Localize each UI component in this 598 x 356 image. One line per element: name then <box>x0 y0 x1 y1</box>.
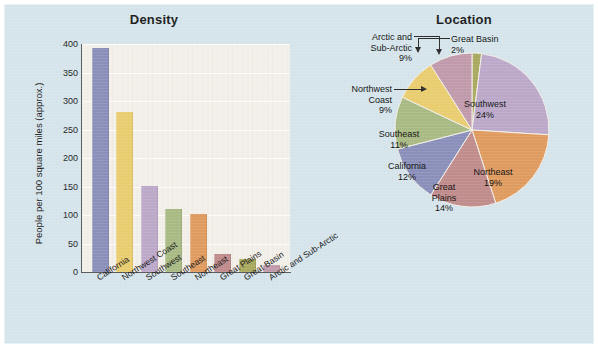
pie-label-california: California 12% <box>376 161 438 182</box>
y-axis-tick-label: 0 <box>38 267 78 277</box>
pie-leader-line-great-basin <box>418 38 450 39</box>
bar-chart-bars <box>82 44 290 272</box>
bar-chart-y-axis-ticks: 050100150200250300350400 <box>32 44 78 272</box>
bar <box>92 48 109 272</box>
pie-label-great-plains: Great Plains 14% <box>420 182 468 214</box>
bar-chart-y-axis-line <box>81 44 82 273</box>
pie-callout-arctic-line2: Sub-Arctic <box>370 43 412 53</box>
y-axis-tick-label: 300 <box>38 96 78 106</box>
bar-chart-title: Density <box>4 12 304 27</box>
pie-label-southwest-name: Southwest <box>464 99 506 109</box>
pie-leader-line-arctic-vertical <box>439 36 440 50</box>
pie-label-california-name: California <box>388 161 426 171</box>
pie-callout-northwest-pct: 9% <box>379 105 392 115</box>
pie-arrow-arctic-icon <box>436 49 442 55</box>
pie-label-southeast: Southeast 11% <box>368 129 430 150</box>
pie-callout-northwest-coast: Northwest Coast 9% <box>334 84 392 116</box>
bar-slot <box>211 44 236 272</box>
pie-callout-northwest-line1: Northwest <box>351 84 392 94</box>
pie-label-northeast: Northeast 19% <box>462 167 524 188</box>
bar-slot <box>186 44 211 272</box>
pie-callout-arctic-pct: 9% <box>399 53 412 63</box>
y-axis-tick-label: 50 <box>38 239 78 249</box>
figure-plate: Density People per 100 square miles (app… <box>4 4 594 344</box>
bar <box>116 112 133 272</box>
pie-callout-northwest-line2: Coast <box>368 95 392 105</box>
pie-label-northeast-pct: 19% <box>462 178 524 189</box>
pie-leader-line-arctic <box>414 36 440 37</box>
pie-label-california-pct: 12% <box>376 172 438 183</box>
bar-slot <box>260 44 285 272</box>
bar-slot <box>137 44 162 272</box>
pie-callout-great-basin: Great Basin 2% <box>451 34 499 55</box>
bar-chart-panel: Density People per 100 square miles (app… <box>4 4 334 344</box>
pie-leader-line-northwest-coast <box>394 89 422 90</box>
pie-callout-arctic-line1: Arctic and <box>372 32 412 42</box>
y-axis-tick-label: 200 <box>38 153 78 163</box>
y-axis-tick-label: 100 <box>38 210 78 220</box>
pie-label-southwest: Southwest 24% <box>452 99 518 120</box>
pie-callout-great-basin-pct: 2% <box>451 45 464 55</box>
pie-label-great-plains-line1: Great <box>433 182 456 192</box>
bar-slot <box>113 44 138 272</box>
bar-chart-x-axis-ticks: CaliforniaNorthwest CoastSouthwestSouthe… <box>82 274 290 344</box>
bar-chart-plot-area <box>82 44 290 272</box>
y-axis-tick-label: 350 <box>38 68 78 78</box>
pie-slice <box>472 54 549 135</box>
y-axis-tick-label: 400 <box>38 39 78 49</box>
pie-label-northeast-name: Northeast <box>473 167 512 177</box>
pie-label-great-plains-line2: Plains <box>420 193 468 204</box>
pie-label-great-plains-pct: 14% <box>420 203 468 214</box>
pie-chart-title: Location <box>334 12 594 27</box>
pie-chart-panel: Location Southwest 24% Northeast 19% Gre… <box>334 4 594 344</box>
bar-slot <box>88 44 113 272</box>
pie-label-southeast-pct: 11% <box>368 140 430 151</box>
figure-root: Density People per 100 square miles (app… <box>0 0 598 356</box>
pie-label-southeast-name: Southeast <box>379 129 420 139</box>
pie-label-southwest-pct: 24% <box>452 110 518 121</box>
pie-arrow-northwest-coast-icon <box>421 86 427 92</box>
bar-slot <box>162 44 187 272</box>
pie-callout-great-basin-name: Great Basin <box>451 34 499 44</box>
pie-arrow-great-basin-icon <box>415 47 421 53</box>
bar-slot <box>235 44 260 272</box>
y-axis-tick-label: 250 <box>38 125 78 135</box>
y-axis-tick-label: 150 <box>38 182 78 192</box>
pie-callout-arctic: Arctic and Sub-Arctic 9% <box>342 32 412 64</box>
